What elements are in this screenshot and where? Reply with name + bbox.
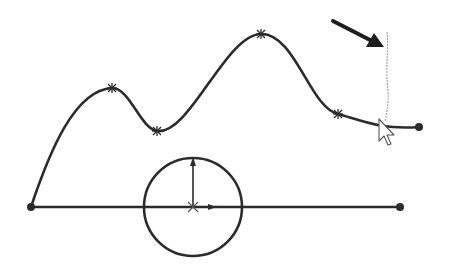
spline-point-icon: [333, 109, 343, 119]
spline-point-icon: [256, 29, 266, 39]
spline-curve[interactable]: [31, 34, 419, 207]
sketch-canvas[interactable]: [0, 0, 452, 266]
endpoint-line-end[interactable]: [396, 203, 404, 211]
mouse-cursor-icon: [379, 119, 394, 145]
origin-axis-icon: [188, 157, 217, 212]
callout-arrow-icon: [333, 21, 384, 47]
guide-line: [385, 32, 388, 122]
endpoint-start[interactable]: [27, 203, 35, 211]
spline-point-icon: [152, 126, 162, 136]
spline-point-icon: [107, 83, 117, 93]
endpoint-spline-end[interactable]: [415, 123, 423, 131]
sketch-graphics: [0, 0, 452, 266]
